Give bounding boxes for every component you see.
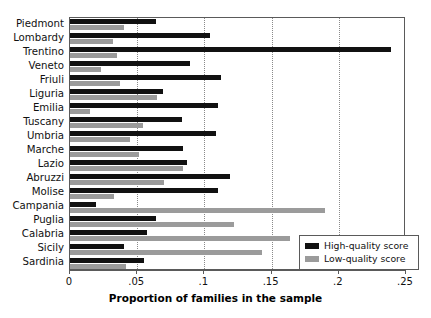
bar-low-quality	[70, 222, 234, 227]
y-axis-category-label: Molise	[32, 187, 64, 197]
bar-high-quality	[70, 47, 391, 52]
y-axis-category-labels: PiedmontLombardyTrentinoVenetoFriuliLigu…	[0, 17, 67, 270]
y-axis-category-label: Lazio	[38, 159, 64, 169]
y-axis-category-label: Abruzzi	[26, 173, 64, 183]
bar-high-quality	[70, 89, 163, 94]
bar-low-quality	[70, 123, 143, 128]
x-axis-tick-label: .05	[128, 276, 144, 287]
x-axis-line	[69, 270, 405, 271]
legend-swatch-low-quality	[305, 256, 319, 262]
bar-low-quality	[70, 236, 290, 241]
bar-high-quality	[70, 131, 216, 136]
y-axis-category-label: Calabria	[22, 229, 64, 239]
bar-low-quality	[70, 95, 157, 100]
x-axis-tick-label: 0	[66, 276, 72, 287]
gridline	[339, 18, 340, 269]
x-axis-title: Proportion of families in the sample	[0, 292, 431, 304]
x-axis-tick	[338, 270, 339, 274]
legend-swatch-high-quality	[305, 243, 319, 249]
y-axis-category-label: Puglia	[33, 215, 64, 225]
x-axis-tick	[136, 270, 137, 274]
bar-low-quality	[70, 53, 117, 58]
y-axis-category-label: Lombardy	[13, 33, 64, 43]
bar-high-quality	[70, 160, 187, 165]
y-axis-category-label: Tuscany	[23, 117, 64, 127]
gridline	[204, 18, 205, 269]
bar-low-quality	[70, 81, 120, 86]
bar-low-quality	[70, 39, 113, 44]
gridline	[272, 18, 273, 269]
y-axis-category-label: Trentino	[23, 47, 64, 57]
bar-low-quality	[70, 194, 114, 199]
bar-low-quality	[70, 152, 139, 157]
legend-item-high-quality: High-quality score	[305, 239, 413, 252]
bar-high-quality	[70, 117, 182, 122]
x-axis-tick-label: .2	[333, 276, 343, 287]
bar-low-quality	[70, 250, 262, 255]
bar-high-quality	[70, 202, 96, 207]
bar-low-quality	[70, 264, 126, 269]
y-axis-category-label: Sicily	[37, 243, 64, 253]
bar-high-quality	[70, 61, 190, 66]
x-axis-tick-label: .1	[199, 276, 209, 287]
bar-high-quality	[70, 103, 218, 108]
x-axis-tick	[69, 270, 70, 274]
bar-low-quality	[70, 180, 164, 185]
x-axis-tick	[271, 270, 272, 274]
y-axis-category-label: Liguria	[29, 89, 64, 99]
x-axis-tick	[405, 270, 406, 274]
chart-container: PiedmontLombardyTrentinoVenetoFriuliLigu…	[0, 0, 431, 318]
y-axis-category-label: Emilia	[33, 103, 64, 113]
bar-high-quality	[70, 188, 218, 193]
bar-low-quality	[70, 109, 90, 114]
bar-high-quality	[70, 174, 230, 179]
x-axis-tick-label: .15	[263, 276, 279, 287]
y-axis-category-label: Piedmont	[16, 19, 64, 29]
bar-high-quality	[70, 75, 221, 80]
bar-high-quality	[70, 146, 183, 151]
x-axis-tick-label: .25	[397, 276, 413, 287]
bar-low-quality	[70, 166, 183, 171]
bar-low-quality	[70, 208, 325, 213]
bar-high-quality	[70, 258, 144, 263]
bar-high-quality	[70, 230, 147, 235]
bar-high-quality	[70, 19, 156, 24]
bar-low-quality	[70, 25, 124, 30]
bar-high-quality	[70, 216, 156, 221]
x-axis-tick	[203, 270, 204, 274]
y-axis-category-label: Veneto	[29, 61, 64, 71]
chart-legend: High-quality score Low-quality score	[299, 235, 419, 270]
plot-area	[69, 17, 405, 270]
bar-low-quality	[70, 137, 130, 142]
y-axis-category-label: Marche	[27, 145, 64, 155]
y-axis-category-label: Friuli	[40, 75, 64, 85]
legend-item-low-quality: Low-quality score	[305, 252, 413, 265]
y-axis-category-label: Umbria	[27, 131, 64, 141]
y-axis-category-label: Sardinia	[22, 257, 64, 267]
bar-low-quality	[70, 67, 101, 72]
legend-label-high-quality: High-quality score	[324, 240, 408, 251]
legend-label-low-quality: Low-quality score	[324, 253, 405, 264]
bar-high-quality	[70, 33, 210, 38]
bar-high-quality	[70, 244, 124, 249]
y-axis-category-label: Campania	[12, 201, 64, 211]
